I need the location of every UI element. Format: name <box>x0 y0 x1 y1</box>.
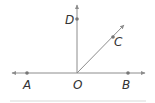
label-o: O <box>73 78 82 92</box>
label-c: C <box>114 35 123 49</box>
label-d: D <box>65 13 74 27</box>
label-a: A <box>22 78 31 92</box>
point-d <box>75 17 79 21</box>
point-a <box>25 71 29 75</box>
label-b: B <box>122 78 130 92</box>
point-b <box>126 71 130 75</box>
geometry-diagram: A O B D C <box>0 0 155 103</box>
ray-oc <box>77 25 124 73</box>
